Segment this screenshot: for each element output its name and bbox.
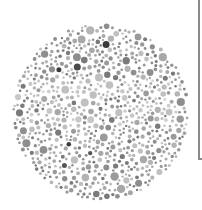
dot xyxy=(67,46,70,49)
dot xyxy=(29,127,35,133)
dot xyxy=(163,125,165,127)
dot xyxy=(112,169,115,172)
dot xyxy=(57,86,60,89)
dot xyxy=(183,107,186,110)
dot xyxy=(129,105,132,108)
dot xyxy=(165,131,168,134)
dot xyxy=(102,39,104,41)
dot xyxy=(91,182,94,185)
dot xyxy=(178,76,180,78)
dot xyxy=(150,176,154,180)
dot-plate xyxy=(0,0,202,210)
dot xyxy=(30,65,33,68)
dot xyxy=(66,138,69,141)
dot xyxy=(128,109,131,112)
dot xyxy=(163,76,168,81)
dot xyxy=(55,155,58,158)
dot xyxy=(101,143,105,147)
dot xyxy=(160,112,164,116)
dot xyxy=(149,125,152,128)
dot xyxy=(81,30,84,33)
dot xyxy=(63,40,66,43)
dot xyxy=(66,37,70,41)
dot xyxy=(48,166,51,169)
dot xyxy=(86,164,91,169)
dot xyxy=(53,127,56,130)
dot xyxy=(128,126,131,129)
dot xyxy=(44,122,46,124)
dot xyxy=(47,108,53,114)
dot xyxy=(116,90,119,93)
dot xyxy=(78,141,82,145)
dot xyxy=(67,29,70,32)
dot xyxy=(184,93,188,97)
dot xyxy=(40,154,43,157)
dot xyxy=(108,189,110,191)
dot xyxy=(140,156,147,163)
dot xyxy=(97,69,101,73)
dot xyxy=(61,37,63,39)
dot xyxy=(84,140,86,142)
dot xyxy=(150,90,154,94)
dot xyxy=(47,103,49,105)
dot xyxy=(119,117,122,120)
dot xyxy=(179,84,182,87)
dot xyxy=(69,62,72,65)
dot xyxy=(39,101,42,104)
dot xyxy=(171,160,173,162)
dot xyxy=(103,122,105,124)
dot xyxy=(130,45,133,48)
dot xyxy=(40,140,43,143)
dot xyxy=(165,168,168,171)
dot xyxy=(51,144,53,146)
dot xyxy=(134,129,139,134)
dot xyxy=(167,137,170,140)
dot xyxy=(120,68,123,71)
dot xyxy=(164,143,167,146)
dot xyxy=(40,146,48,154)
dot xyxy=(53,151,56,154)
dot xyxy=(85,51,87,53)
dot xyxy=(149,39,152,42)
dot xyxy=(97,83,99,85)
dot xyxy=(88,140,91,143)
dot xyxy=(59,172,61,174)
dot xyxy=(149,109,151,111)
dot xyxy=(83,86,86,89)
dot xyxy=(58,124,61,127)
dot xyxy=(102,183,105,186)
dot xyxy=(137,87,140,90)
dot xyxy=(143,64,146,67)
dot xyxy=(110,172,118,180)
dot xyxy=(48,147,52,151)
dot xyxy=(120,105,123,108)
dot xyxy=(121,140,124,143)
dot xyxy=(78,44,81,47)
dot xyxy=(126,146,130,150)
dot xyxy=(138,67,141,70)
dot xyxy=(119,129,122,132)
dot xyxy=(112,62,115,65)
dot xyxy=(125,41,128,44)
dot xyxy=(122,37,124,39)
dot xyxy=(55,99,58,102)
dot xyxy=(93,191,100,198)
dot xyxy=(26,111,28,113)
dot xyxy=(100,60,103,63)
dot xyxy=(69,75,72,78)
dot xyxy=(60,98,63,101)
dot xyxy=(97,181,100,184)
dot xyxy=(159,75,162,78)
dot xyxy=(108,56,112,60)
dot xyxy=(71,50,74,53)
dot xyxy=(36,126,40,130)
dot xyxy=(80,47,83,50)
dot xyxy=(128,166,130,168)
dot xyxy=(103,186,107,190)
dot xyxy=(104,54,108,58)
dot xyxy=(98,93,101,96)
dot xyxy=(81,57,88,64)
dot xyxy=(114,189,117,192)
dot xyxy=(88,88,91,91)
dot xyxy=(150,105,153,108)
